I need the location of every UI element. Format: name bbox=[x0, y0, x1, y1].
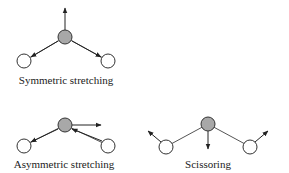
central-atom bbox=[58, 30, 72, 44]
arrow-left-icon bbox=[31, 41, 58, 57]
outer-atom-left bbox=[159, 140, 173, 154]
arrow-toward-center-icon bbox=[72, 129, 102, 141]
outer-atom-left bbox=[17, 54, 31, 68]
asymmetric-stretching-mode: Asymmetric stretching bbox=[14, 118, 115, 170]
outer-atom-right bbox=[101, 139, 115, 153]
central-atom bbox=[201, 117, 215, 131]
arrow-right-icon bbox=[72, 41, 101, 57]
outer-atom-right bbox=[243, 140, 257, 154]
mode-label: Asymmetric stretching bbox=[14, 158, 115, 170]
outer-atom-left bbox=[17, 139, 31, 153]
arrow-up-left-icon bbox=[148, 131, 161, 142]
arrow-up-right-icon bbox=[255, 131, 268, 142]
scissoring-mode: Scissoring bbox=[148, 117, 268, 170]
vibrational-modes-diagram: Symmetric stretching Asymmetric stretchi… bbox=[0, 0, 289, 173]
central-atom bbox=[58, 118, 72, 132]
symmetric-stretching-mode: Symmetric stretching bbox=[17, 8, 115, 86]
arrow-left-icon bbox=[31, 129, 58, 142]
mode-label: Symmetric stretching bbox=[19, 74, 114, 86]
mode-label: Scissoring bbox=[185, 158, 231, 170]
outer-atom-right bbox=[101, 54, 115, 68]
